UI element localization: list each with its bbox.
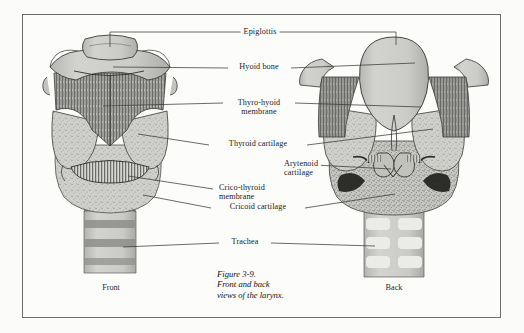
back-view-illustration: [300, 37, 489, 277]
back-trachea: [364, 207, 424, 277]
label-arytenoid-cartilage: Arytenoid cartilage: [281, 159, 321, 177]
figure-caption-line-3: views of the larynx.: [217, 290, 284, 300]
label-crico-thyroid-membrane-line2: membrane: [219, 192, 254, 201]
label-trachea: Trachea: [229, 238, 262, 247]
label-epiglottis: Epiglottis: [241, 28, 280, 37]
figure-frame: Epiglottis Hyoid bone Thyro-hyoid membra…: [22, 14, 501, 318]
label-thyro-hyoid-membrane-line1: Thyro-hyoid: [238, 98, 281, 107]
front-trachea: [84, 207, 136, 274]
label-thyroid-cartilage: Thyroid cartilage: [226, 140, 290, 149]
label-arytenoid-cartilage-line2: cartilage: [284, 168, 313, 177]
figure-caption-line-2: Front and back: [217, 279, 284, 289]
label-arytenoid-cartilage-line1: Arytenoid: [284, 159, 318, 168]
label-thyro-hyoid-membrane-line2: membrane: [241, 107, 276, 116]
front-view-illustration: [43, 35, 177, 273]
figure-caption-line-1: Figure 3-9.: [217, 269, 284, 279]
label-crico-thyroid-membrane-line1: Crico-thyroid: [219, 183, 265, 192]
view-label-front: Front: [102, 283, 120, 292]
label-cricoid-cartilage: Cricoid cartilage: [227, 203, 290, 212]
view-label-back: Back: [386, 283, 403, 292]
leader-cricoid-left: [143, 195, 211, 208]
leader-trachea-right: [271, 243, 375, 246]
label-hyoid-bone: Hyoid bone: [236, 63, 281, 72]
figure-caption: Figure 3-9. Front and back views of the …: [217, 269, 284, 300]
leader-trachea-left: [123, 243, 219, 247]
label-thyro-hyoid-membrane: Thyro-hyoid membrane: [235, 98, 284, 116]
label-crico-thyroid-membrane: Crico-thyroid membrane: [216, 183, 268, 201]
figure-stage: Epiglottis Hyoid bone Thyro-hyoid membra…: [23, 15, 500, 317]
